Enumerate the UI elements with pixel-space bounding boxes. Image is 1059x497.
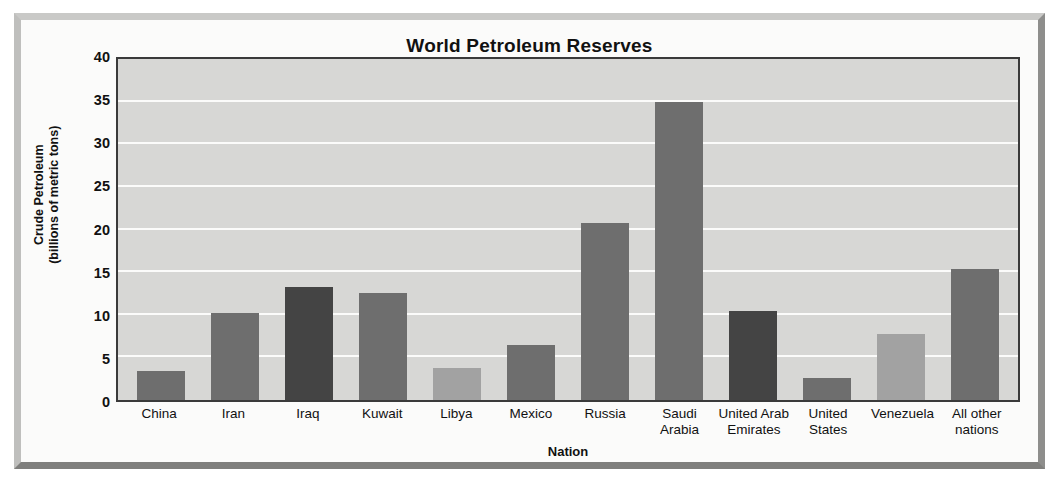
x-axis-tick-label: Saudi Arabia: [642, 406, 716, 437]
y-axis-tick-labels: 0510152025303540: [76, 57, 110, 402]
bar[interactable]: [803, 378, 850, 400]
y-axis-title-line-2: (billions of metric tons): [47, 85, 62, 305]
bar[interactable]: [285, 287, 332, 400]
bar-slot: [124, 59, 198, 400]
bar[interactable]: [877, 334, 924, 400]
bar-series: [118, 59, 1018, 400]
bar-slot: [494, 59, 568, 400]
x-axis-tick-label: Russia: [568, 406, 642, 437]
bar-slot: [642, 59, 716, 400]
y-axis-tick-label: 0: [76, 394, 110, 410]
bar[interactable]: [211, 313, 258, 400]
y-axis-title-line-1: Crude Petroleum: [32, 85, 47, 305]
bar-slot: [716, 59, 790, 400]
bar-slot: [198, 59, 272, 400]
bar-slot: [790, 59, 864, 400]
bar[interactable]: [951, 269, 998, 400]
x-axis-tick-label: United Arab Emirates: [717, 406, 791, 437]
bar-slot: [420, 59, 494, 400]
bar[interactable]: [359, 293, 406, 400]
figure-frame: World Petroleum Reserves Crude Petroleum…: [14, 13, 1045, 469]
y-axis-tick-label: 10: [76, 308, 110, 324]
y-axis-tick-label: 20: [76, 222, 110, 238]
bar[interactable]: [137, 371, 184, 400]
figure-inner: World Petroleum Reserves Crude Petroleum…: [21, 20, 1038, 462]
bar[interactable]: [581, 223, 628, 400]
bar[interactable]: [729, 311, 776, 400]
bar-slot: [272, 59, 346, 400]
x-axis-tick-label: All other nations: [940, 406, 1014, 437]
y-axis-tick-label: 5: [76, 351, 110, 367]
chart-page: World Petroleum Reserves Crude Petroleum…: [0, 0, 1059, 497]
bar-slot: [938, 59, 1012, 400]
bar[interactable]: [655, 102, 702, 400]
x-axis-tick-label: United States: [791, 406, 865, 437]
y-axis-title: Crude Petroleum (billions of metric tons…: [32, 85, 62, 305]
bar-slot: [568, 59, 642, 400]
x-axis-tick-label: Kuwait: [345, 406, 419, 437]
y-axis-tick-label: 25: [76, 178, 110, 194]
x-axis-tick-label: Libya: [419, 406, 493, 437]
x-axis-tick-label: Mexico: [494, 406, 568, 437]
bar-slot: [864, 59, 938, 400]
y-axis-tick-label: 40: [76, 49, 110, 65]
bar[interactable]: [507, 345, 554, 400]
x-axis-title: Nation: [116, 444, 1020, 459]
x-axis-tick-label: Iran: [196, 406, 270, 437]
x-axis-tick-label: Venezuela: [865, 406, 939, 437]
y-axis-tick-label: 15: [76, 265, 110, 281]
x-axis-tick-label: China: [122, 406, 196, 437]
chart-title: World Petroleum Reserves: [21, 35, 1038, 57]
y-axis-tick-label: 30: [76, 135, 110, 151]
x-axis-tick-labels: ChinaIranIraqKuwaitLibyaMexicoRussiaSaud…: [116, 406, 1020, 437]
y-axis-tick-label: 35: [76, 92, 110, 108]
bar[interactable]: [433, 368, 480, 400]
bar-slot: [346, 59, 420, 400]
plot-area: [116, 57, 1020, 402]
x-axis-tick-label: Iraq: [271, 406, 345, 437]
